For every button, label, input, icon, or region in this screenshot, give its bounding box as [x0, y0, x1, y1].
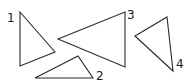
triangles-diagram: 1 2 3 4 — [0, 0, 190, 82]
triangle-2-label: 2 — [96, 69, 104, 82]
triangle-1-label: 1 — [7, 11, 15, 25]
triangle-1: 1 — [7, 11, 55, 66]
triangle-4-shape — [135, 17, 173, 71]
triangle-2: 2 — [35, 56, 104, 82]
triangle-3-shape — [58, 12, 125, 67]
triangle-4: 4 — [135, 17, 184, 71]
triangle-2-shape — [35, 56, 93, 78]
triangle-4-label: 4 — [176, 57, 184, 71]
triangle-3-label: 3 — [127, 8, 135, 22]
triangle-1-shape — [20, 12, 55, 66]
triangle-3: 3 — [58, 8, 135, 67]
